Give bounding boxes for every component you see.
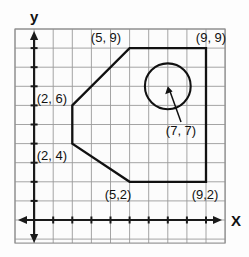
label-point-9-2: (9,2) <box>192 187 219 202</box>
label-point-2-6: (2, 6) <box>37 91 67 106</box>
label-point-2-4: (2, 4) <box>37 148 67 163</box>
label-circle-center-7-7: (7, 7) <box>166 123 196 138</box>
x-axis-label: X <box>231 212 241 229</box>
coordinate-figure: (5, 9) (9, 9) (2, 6) (2, 4) (5,2) (9,2) … <box>0 0 249 257</box>
coordinate-plane-svg: (5, 9) (9, 9) (2, 6) (2, 4) (5,2) (9,2) … <box>0 0 249 257</box>
y-axis-label: y <box>30 8 39 25</box>
label-point-5-9: (5, 9) <box>91 30 121 45</box>
label-point-9-9: (9, 9) <box>196 30 226 45</box>
label-point-5-2: (5,2) <box>105 187 132 202</box>
